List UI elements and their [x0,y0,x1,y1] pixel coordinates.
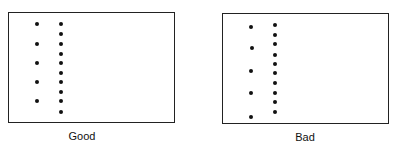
dot [35,80,39,84]
dot [35,99,39,103]
panel-good-label: Good [69,130,96,142]
dot [59,90,63,94]
dot [35,42,39,46]
dot [59,61,63,65]
dot [273,53,277,57]
dot [273,62,277,66]
panel-good-frame [8,12,175,123]
dot [59,110,63,114]
dot [59,52,63,56]
dot [249,69,253,73]
dot [59,22,63,26]
dot [35,61,39,65]
dot [59,80,63,84]
dot [59,99,63,103]
dot [273,91,277,95]
dot [59,71,63,75]
dot [273,100,277,104]
dot [273,23,277,27]
dot [273,110,277,114]
dot [249,115,253,119]
dot [273,42,277,46]
dot [59,32,63,36]
dot [273,33,277,37]
dot [249,25,253,29]
panel-bad-frame [222,13,389,124]
panel-bad-label: Bad [295,131,315,142]
dot [250,46,254,50]
dot [35,22,39,26]
dot [249,91,253,95]
dot [273,71,277,75]
dot [59,42,63,46]
dot [273,81,277,85]
